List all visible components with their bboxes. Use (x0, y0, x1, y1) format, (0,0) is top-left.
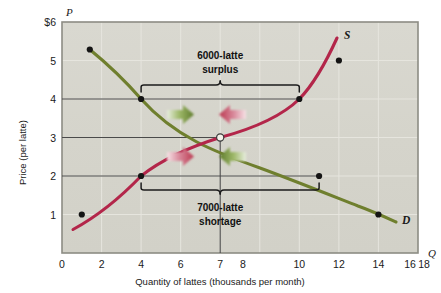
data-point (79, 211, 85, 217)
x-tick-label: 0 (59, 258, 65, 270)
x-tick-label: 18 (418, 258, 430, 270)
x-tick-label: 4 (138, 258, 144, 270)
x-tick-label: 2 (99, 258, 105, 270)
x-tick-label: 8 (240, 258, 246, 270)
data-point (316, 173, 322, 179)
y-tick-label: 5 (50, 55, 56, 67)
data-point (296, 96, 302, 102)
x-tick-label: 12 (333, 258, 345, 270)
y-tick-label: 3 (50, 132, 56, 144)
y-tick-label: 1 (50, 209, 56, 221)
surplus-annotation-line1: 6000-latte (197, 50, 244, 61)
surplus-annotation-line2: surplus (202, 64, 239, 75)
x-tick-label: 10 (293, 258, 305, 270)
y-axis-symbol: P (65, 6, 73, 18)
x-tick-label: 16 (404, 258, 416, 270)
chart-figure: S D 6000-latte surplus 7000-latte shorta… (0, 0, 441, 293)
y-axis-title: Price (per latte) (17, 120, 28, 185)
y-tick-label: 2 (50, 170, 56, 182)
data-point (375, 211, 381, 217)
data-point (87, 46, 93, 52)
y-tick-label: 4 (50, 93, 56, 105)
data-point (138, 173, 144, 179)
x-tick-label: 14 (373, 258, 385, 270)
data-point (336, 57, 342, 63)
x-tick-label: 7 (217, 258, 223, 270)
data-point (138, 96, 144, 102)
equilibrium-point (217, 134, 224, 141)
demand-curve-label: D (401, 214, 411, 226)
shortage-annotation-line1: 7000-latte (197, 202, 244, 213)
supply-demand-chart: S D 6000-latte surplus 7000-latte shorta… (0, 0, 441, 293)
y-tick-label: $6 (44, 16, 56, 28)
x-tick-label: 6 (178, 258, 184, 270)
x-axis-title: Quantity of lattes (thousands per month) (135, 276, 305, 287)
supply-curve-label: S (344, 29, 350, 41)
x-axis-symbol: Q (428, 247, 436, 259)
shortage-annotation-line2: shortage (199, 216, 242, 227)
